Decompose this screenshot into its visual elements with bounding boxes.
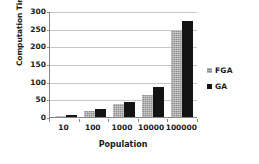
y-axis-tick-label: 100: [26, 79, 46, 87]
x-axis-tick-mark: [79, 119, 80, 122]
plot-area: [49, 12, 197, 118]
bar-fga-1000: [113, 104, 124, 117]
bar-chart: Computation Time 050100150200250300 1010…: [0, 0, 259, 164]
y-axis-tick-label: 250: [26, 26, 46, 34]
y-axis-tick-mark: [47, 47, 50, 48]
x-axis-tick-label: 10000: [137, 119, 166, 131]
legend-swatch-icon: [207, 68, 212, 73]
y-axis-tick-mark: [47, 100, 50, 101]
legend: FGAGA: [207, 62, 257, 94]
y-axis-tick-mark: [47, 65, 50, 66]
bar-fga-10000: [142, 95, 153, 117]
bar-group: [168, 12, 197, 117]
legend-item-fga[interactable]: FGA: [207, 62, 257, 78]
x-axis-tick-mark: [197, 119, 198, 122]
y-axis-tick-labels: 050100150200250300: [26, 12, 46, 118]
bar-ga-100000: [182, 21, 193, 117]
x-axis-tick-mark: [167, 119, 168, 122]
bar-group: [51, 12, 80, 117]
bar-group: [109, 12, 138, 117]
y-axis-tick-mark: [47, 12, 50, 13]
y-axis-tick-label: 300: [26, 8, 46, 16]
x-axis-title: Population: [49, 140, 197, 149]
y-axis-title: Computation Time: [14, 0, 26, 76]
legend-label: GA: [215, 82, 227, 91]
x-axis-tick-label: 10: [49, 119, 78, 131]
y-axis-tick-mark: [47, 83, 50, 84]
legend-swatch-icon: [207, 84, 212, 89]
bar-group: [80, 12, 109, 117]
y-axis-tick-label: 200: [26, 43, 46, 51]
y-axis-tick-label: 50: [26, 96, 46, 104]
x-axis-tick-label: 1000: [107, 119, 136, 131]
legend-item-ga[interactable]: GA: [207, 78, 257, 94]
x-axis-tick-mark: [49, 119, 50, 122]
bar-ga-1000: [124, 102, 135, 117]
bar-ga-100: [95, 109, 106, 117]
y-axis-tick-mark: [47, 30, 50, 31]
y-axis-tick-label: 0: [26, 114, 46, 122]
bar-groups: [51, 12, 197, 117]
x-axis-tick-label: 100000: [166, 119, 197, 131]
x-axis-line: [50, 117, 197, 118]
bar-group: [139, 12, 168, 117]
legend-label: FGA: [215, 66, 233, 75]
bar-ga-10000: [153, 87, 164, 117]
x-axis-tick-labels: 10100100010000100000: [49, 119, 197, 131]
y-axis-tick-label: 150: [26, 61, 46, 69]
bar-fga-100000: [171, 30, 182, 117]
x-axis-tick-label: 100: [78, 119, 107, 131]
x-axis-tick-mark: [138, 119, 139, 122]
x-axis-tick-mark: [108, 119, 109, 122]
